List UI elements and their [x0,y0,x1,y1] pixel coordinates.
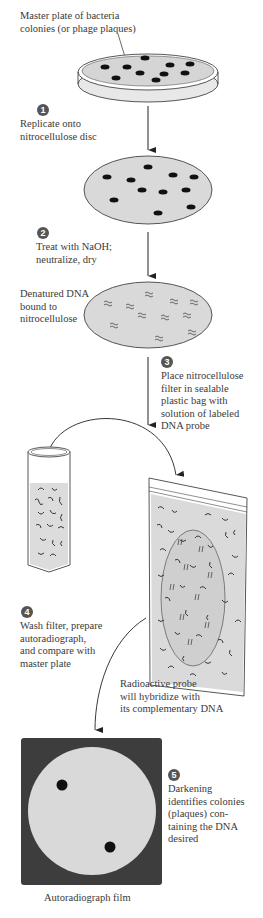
nitrocellulose-disc [84,156,212,224]
step-1-badge: 1 [37,104,49,116]
denatured-dna-label: Denatured DNA bound to nitrocellulose [20,288,89,326]
sealable-plastic-bag [149,478,247,696]
autoradiograph-film-label: Autoradiograph film [44,892,131,905]
step-5-text: Darkening identifies colonies (plaques) … [168,783,245,846]
master-plate-dish [78,54,218,102]
step-3-badge: 3 [161,356,173,368]
step-2-badge: 2 [37,227,49,239]
step-1-text: Replicate onto nitrocellulose disc [20,118,97,143]
step-4-text: Wash filter, prepare autoradiograph, and… [20,620,102,670]
step-3-text: Place nitrocellulose filter in sealable … [161,370,244,433]
autoradiograph-film [21,738,162,885]
step-5-badge: 5 [168,769,180,781]
step-4-badge: 4 [21,606,33,618]
master-plate-label: Master plate of bacteria colonies (or ph… [20,10,136,35]
radioactive-probe-label: Radioactive probe will hybridize with it… [120,678,223,716]
probe-test-tube [28,447,70,572]
denatured-dna-disc [84,282,212,348]
step-2-text: Treat with NaOH; neutralize, dry [36,241,112,266]
